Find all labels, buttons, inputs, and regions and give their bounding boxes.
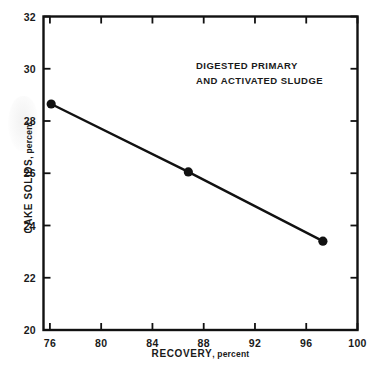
y-axis-title: CAKE SOLIDS, percent bbox=[23, 103, 34, 253]
annotation-line-1: DIGESTED PRIMARY bbox=[196, 58, 323, 73]
y-axis-title-unit: , percent bbox=[24, 121, 34, 158]
y-tick-label: 22 bbox=[8, 272, 36, 284]
y-tick-label: 30 bbox=[8, 63, 36, 75]
chart-annotation: DIGESTED PRIMARY AND ACTIVATED SLUDGE bbox=[196, 58, 323, 88]
x-axis-title-unit: , percent bbox=[212, 349, 249, 359]
plot-canvas bbox=[0, 0, 370, 368]
data-series-layer bbox=[47, 99, 328, 245]
x-axis-title-text: RECOVERY bbox=[152, 348, 213, 359]
annotation-line-2: AND ACTIVATED SLUDGE bbox=[196, 73, 323, 88]
y-tick-label: 32 bbox=[8, 11, 36, 23]
data-point-marker bbox=[47, 99, 56, 108]
y-tick-label: 20 bbox=[8, 324, 36, 336]
data-point-marker bbox=[318, 237, 327, 246]
x-axis-title: RECOVERY, percent bbox=[43, 348, 358, 359]
chart-figure: 20222426283032 768084889296100 CAKE SOLI… bbox=[0, 0, 370, 368]
data-point-marker bbox=[184, 167, 193, 176]
y-axis-title-text: CAKE SOLIDS bbox=[23, 159, 34, 234]
